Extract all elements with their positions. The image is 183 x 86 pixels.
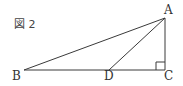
- point-label-A: A: [163, 3, 173, 17]
- figure-label: 図 2: [14, 18, 36, 31]
- point-label-D: D: [104, 69, 114, 83]
- triangle-diagram: 図 2 A B D C: [0, 0, 183, 86]
- point-label-B: B: [12, 69, 21, 83]
- segment-AB: [24, 18, 165, 70]
- point-label-C: C: [164, 69, 173, 83]
